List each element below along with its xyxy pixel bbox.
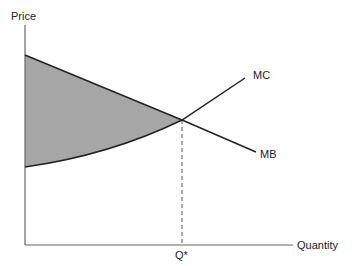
welfare-chart: Price Quantity MC MB Q*: [0, 0, 355, 266]
x-axis-label: Quantity: [297, 239, 338, 251]
y-axis-label: Price: [11, 10, 36, 22]
mc-label: MC: [253, 69, 270, 81]
mb-label: MB: [260, 148, 277, 160]
qstar-label: Q*: [175, 249, 189, 261]
